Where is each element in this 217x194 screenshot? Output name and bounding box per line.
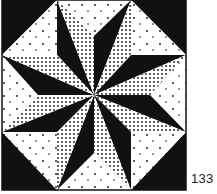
quilt-block [0,0,190,194]
figure-number: 133 [191,171,214,186]
